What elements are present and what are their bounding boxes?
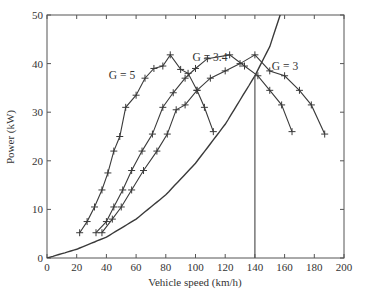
curve-label-g3: G = 3 bbox=[272, 60, 299, 72]
x-tick-label: 0 bbox=[44, 261, 50, 273]
x-tick-label: 40 bbox=[101, 261, 113, 273]
power-vs-speed-chart: 02040608010012014016018020001020304050 V… bbox=[0, 0, 365, 303]
y-tick-label: 50 bbox=[32, 9, 44, 21]
y-tick-label: 0 bbox=[38, 252, 44, 264]
x-axis-label: Vehicle speed (km/h) bbox=[148, 276, 242, 289]
x-tick-label: 80 bbox=[160, 261, 172, 273]
series-layer bbox=[47, 1, 328, 258]
power-curve bbox=[96, 55, 292, 233]
curve-label-g5: G = 5 bbox=[109, 69, 136, 81]
y-tick-label: 40 bbox=[32, 58, 44, 70]
x-tick-label: 140 bbox=[247, 261, 264, 273]
curve-label-g3-4: G = 3.4 bbox=[193, 51, 228, 63]
y-axis-label: Power (kW) bbox=[4, 110, 17, 164]
y-tick-label: 30 bbox=[32, 106, 44, 118]
x-tick-label: 200 bbox=[336, 261, 353, 273]
x-tick-label: 60 bbox=[131, 261, 143, 273]
x-tick-label: 120 bbox=[217, 261, 234, 273]
y-tick-label: 20 bbox=[32, 155, 44, 167]
x-tick-label: 100 bbox=[187, 261, 204, 273]
x-tick-label: 180 bbox=[306, 261, 323, 273]
x-tick-label: 20 bbox=[71, 261, 83, 273]
x-tick-label: 160 bbox=[276, 261, 293, 273]
road-load-curve bbox=[47, 1, 285, 258]
series-road-load bbox=[47, 1, 285, 258]
power-curve bbox=[102, 55, 325, 233]
y-tick-label: 10 bbox=[32, 203, 44, 215]
